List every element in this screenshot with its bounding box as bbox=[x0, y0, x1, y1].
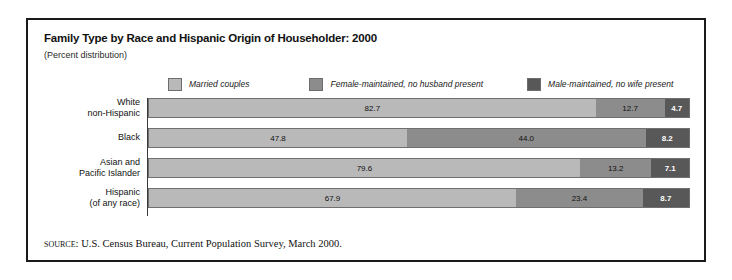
bar-value-label: 79.6 bbox=[357, 164, 373, 173]
row-label-white-non-hispanic: White non-Hispanic bbox=[44, 97, 140, 118]
bar-segment-married-couples: 79.6 bbox=[148, 158, 580, 178]
bar-segment-male-maintained: 8.7 bbox=[643, 188, 690, 208]
legend-swatch-icon-female-maintained bbox=[309, 78, 323, 91]
stacked-bar-white-non-hispanic: 82.7 12.7 4.7 bbox=[148, 98, 690, 118]
row-label-line1: White bbox=[117, 97, 140, 107]
source-note: Source: U.S. Census Bureau, Current Popu… bbox=[44, 237, 342, 249]
bar-value-label: 67.9 bbox=[325, 194, 341, 203]
bar-segment-married-couples: 82.7 bbox=[148, 98, 596, 118]
stacked-bar-hispanic: 67.9 23.4 8.7 bbox=[148, 188, 690, 208]
legend-label-male-maintained: Male-maintained, no wife present bbox=[548, 79, 673, 89]
row-label-black: Black bbox=[44, 132, 140, 143]
legend-item-male-maintained: Male-maintained, no wife present bbox=[527, 78, 673, 91]
bar-segment-male-maintained: 8.2 bbox=[646, 128, 690, 148]
bar-segment-female-maintained: 44.0 bbox=[407, 128, 645, 148]
chart-figure-frame: Family Type by Race and Hispanic Origin … bbox=[26, 18, 706, 262]
bar-value-label: 12.7 bbox=[622, 104, 638, 113]
bar-value-label: 44.0 bbox=[519, 134, 535, 143]
bar-value-label: 8.7 bbox=[660, 194, 671, 203]
source-text: U.S. Census Bureau, Current Population S… bbox=[81, 238, 342, 249]
row-label-line1: Hispanic bbox=[105, 187, 140, 197]
stacked-bar-asian-pacific-islander: 79.6 13.2 7.1 bbox=[148, 158, 690, 178]
bar-value-label: 7.1 bbox=[665, 164, 676, 173]
bar-value-label: 47.8 bbox=[270, 134, 286, 143]
legend-label-married-couples: Married couples bbox=[189, 79, 249, 89]
source-label: Source: bbox=[44, 237, 79, 249]
row-label-hispanic: Hispanic (of any race) bbox=[44, 187, 140, 208]
bar-segment-married-couples: 47.8 bbox=[148, 128, 407, 148]
bar-segment-married-couples: 67.9 bbox=[148, 188, 516, 208]
chart-row-black: Black 47.8 44.0 8.2 bbox=[44, 128, 690, 148]
chart-row-hispanic: Hispanic (of any race) 67.9 23.4 8.7 bbox=[44, 188, 690, 208]
legend-swatch-icon-married-couples bbox=[168, 78, 182, 91]
row-label-line1: Black bbox=[118, 132, 140, 142]
chart-row-asian-pacific-islander: Asian and Pacific Islander 79.6 13.2 7.1 bbox=[44, 158, 690, 178]
bar-value-label: 23.4 bbox=[572, 194, 588, 203]
page-title: Family Type by Race and Hispanic Origin … bbox=[44, 32, 377, 44]
chart-subtitle: (Percent distribution) bbox=[44, 50, 127, 60]
row-label-line2: non-Hispanic bbox=[44, 108, 140, 119]
bar-segment-male-maintained: 4.7 bbox=[665, 98, 690, 118]
row-label-line2: (of any race) bbox=[44, 198, 140, 209]
bar-segment-female-maintained: 23.4 bbox=[516, 188, 643, 208]
chart-legend: Married couples Female-maintained, no hu… bbox=[168, 76, 673, 92]
bar-segment-female-maintained: 13.2 bbox=[580, 158, 652, 178]
bar-segment-female-maintained: 12.7 bbox=[596, 98, 665, 118]
row-label-line2: Pacific Islander bbox=[44, 168, 140, 179]
row-label-line1: Asian and bbox=[100, 157, 140, 167]
legend-item-female-maintained: Female-maintained, no husband present bbox=[309, 78, 483, 91]
chart-row-white-non-hispanic: White non-Hispanic 82.7 12.7 4.7 bbox=[44, 98, 690, 118]
bar-value-label: 8.2 bbox=[662, 134, 673, 143]
legend-swatch-icon-male-maintained bbox=[527, 78, 541, 91]
bar-value-label: 13.2 bbox=[608, 164, 624, 173]
chart-plot-area: White non-Hispanic 82.7 12.7 4.7 Black bbox=[44, 98, 690, 216]
legend-label-female-maintained: Female-maintained, no husband present bbox=[330, 79, 483, 89]
legend-item-married-couples: Married couples bbox=[168, 78, 249, 91]
bar-value-label: 4.7 bbox=[671, 104, 682, 113]
row-label-asian-pacific-islander: Asian and Pacific Islander bbox=[44, 157, 140, 178]
stacked-bar-black: 47.8 44.0 8.2 bbox=[148, 128, 690, 148]
bar-segment-male-maintained: 7.1 bbox=[651, 158, 690, 178]
bar-value-label: 82.7 bbox=[365, 104, 381, 113]
